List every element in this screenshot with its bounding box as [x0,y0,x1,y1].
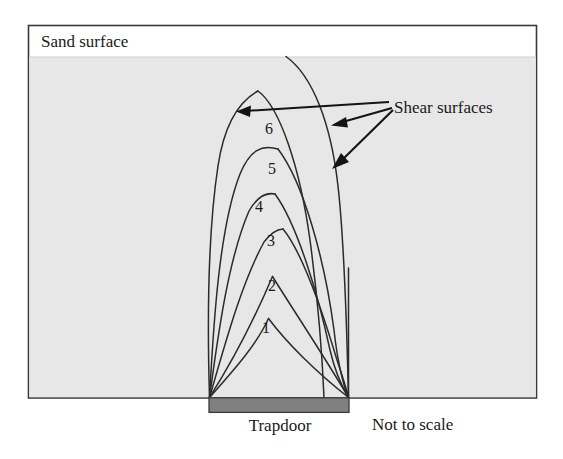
curve-number-3: 3 [267,232,275,249]
figure-page: Sand surface Shear surfaces Trapdoor Not… [0,0,563,459]
trapdoor-rect [209,398,349,413]
not-to-scale-label: Not to scale [372,415,453,434]
curve-number-5: 5 [268,160,276,177]
shear-surfaces-label: Shear surfaces [394,98,493,117]
curve-number-1: 1 [262,319,270,336]
curve-number-4: 4 [255,198,263,215]
trapdoor-label: Trapdoor [249,416,312,435]
curve-number-2: 2 [268,277,276,294]
curve-number-6: 6 [265,120,273,137]
trapdoor-shear-surface-figure: Sand surface Shear surfaces Trapdoor Not… [0,0,563,459]
sand-surface-label: Sand surface [41,32,128,51]
